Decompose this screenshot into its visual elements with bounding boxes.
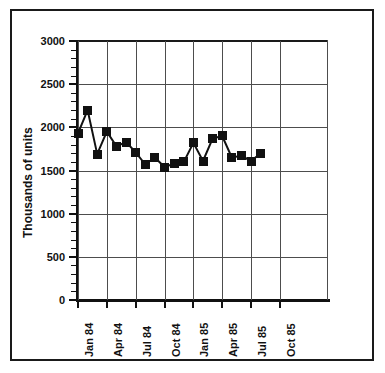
data-point-marker [160, 163, 169, 172]
line-chart: Thousands of units 050010001500200025003… [0, 0, 385, 373]
data-point-marker [150, 153, 159, 162]
x-axis-tick-label: Apr 84 [112, 323, 124, 357]
x-axis-tick-label: Apr 85 [227, 323, 239, 357]
x-axis-tick [221, 300, 223, 308]
data-point-marker [189, 138, 198, 147]
data-point-marker [74, 129, 83, 138]
x-axis-tick [250, 300, 252, 308]
y-axis-minor-tick [71, 162, 77, 163]
y-axis-tick-label: 1500 [21, 166, 65, 177]
y-axis-tick [69, 170, 77, 172]
series-line [0, 0, 385, 373]
data-point-marker [227, 153, 236, 162]
y-axis-tick [69, 83, 77, 85]
y-axis-minor-tick [71, 50, 77, 51]
y-axis-tick [69, 213, 77, 215]
data-point-marker [141, 160, 150, 169]
y-axis-minor-tick [71, 93, 77, 94]
y-axis-tick-label: 3000 [21, 36, 65, 47]
y-axis-minor-tick [71, 205, 77, 206]
y-axis-tick-label: 1000 [21, 209, 65, 220]
y-axis-tick-label: 0 [21, 295, 65, 306]
x-axis-tick-label: Jul 85 [256, 326, 268, 357]
y-axis-minor-tick [71, 291, 77, 292]
x-axis-tick-label: Oct 84 [170, 323, 182, 357]
data-point-marker [102, 127, 111, 136]
data-point-marker [131, 148, 140, 157]
y-axis-tick-label: 500 [21, 252, 65, 263]
data-point-marker [179, 157, 188, 166]
y-axis-minor-tick [71, 274, 77, 275]
y-axis-minor-tick [71, 222, 77, 223]
data-point-marker [237, 151, 246, 160]
y-axis-tick-label: 2000 [21, 122, 65, 133]
y-axis-minor-tick [71, 231, 77, 232]
data-point-marker [122, 138, 131, 147]
data-point-marker [218, 131, 227, 140]
data-point-marker [112, 142, 121, 151]
y-axis-minor-tick [71, 283, 77, 284]
y-axis-minor-tick [71, 188, 77, 189]
y-axis-minor-tick [71, 265, 77, 266]
y-axis-tick [69, 299, 77, 301]
y-axis-minor-tick [71, 58, 77, 59]
y-axis-tick [69, 40, 77, 42]
y-axis-tick [69, 256, 77, 258]
y-axis-minor-tick [71, 110, 77, 111]
x-axis-tick [164, 300, 166, 308]
y-axis-minor-tick [71, 67, 77, 68]
y-axis-minor-tick [71, 119, 77, 120]
y-axis-minor-tick [71, 145, 77, 146]
x-axis-tick-label: Jul 84 [141, 326, 153, 357]
x-axis-tick [279, 300, 281, 308]
x-axis-tick-label: Jan 84 [83, 323, 95, 357]
data-point-marker [93, 150, 102, 159]
x-axis-tick [106, 300, 108, 308]
y-axis-minor-tick [71, 196, 77, 197]
y-axis-tick-label: 2500 [21, 79, 65, 90]
data-point-marker [199, 157, 208, 166]
data-point-marker [170, 159, 179, 168]
x-axis-tick [77, 300, 79, 308]
y-axis-minor-tick [71, 76, 77, 77]
data-point-marker [83, 106, 92, 115]
x-axis-tick-label: Oct 85 [285, 323, 297, 357]
y-axis-minor-tick [71, 101, 77, 102]
data-point-marker [208, 134, 217, 143]
x-axis-tick [192, 300, 194, 308]
x-axis-tick [135, 300, 137, 308]
data-point-marker [256, 149, 265, 158]
y-axis-minor-tick [71, 179, 77, 180]
data-point-marker [247, 157, 256, 166]
x-axis-tick-label: Jan 85 [198, 323, 210, 357]
y-axis-minor-tick [71, 248, 77, 249]
y-axis-minor-tick [71, 153, 77, 154]
y-axis-minor-tick [71, 240, 77, 241]
